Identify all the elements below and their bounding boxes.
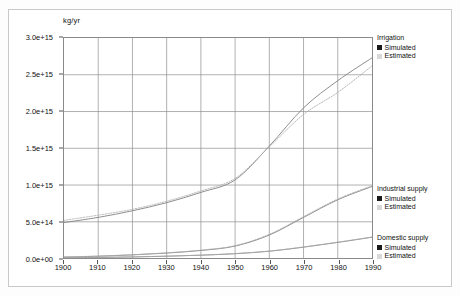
series-lines (64, 38, 372, 259)
y-axis-tick-label: 0.0e+00 (26, 255, 53, 264)
x-axis-tick-label: 1950 (227, 263, 244, 272)
x-axis-tick-label: 1900 (55, 263, 72, 272)
y-axis-tick-label: 2.0e+15 (26, 107, 53, 116)
x-axis-tick-mark (235, 260, 236, 264)
legend-irrigation: IrrigationSimulatedEstimated (377, 34, 416, 61)
legend-entry-label: Simulated (385, 44, 416, 53)
x-axis-tick-label: 1940 (192, 263, 209, 272)
legend-entry-label: Estimated (385, 203, 416, 212)
legend-entry: Simulated (377, 244, 428, 253)
series-line (64, 187, 372, 258)
y-axis-tick-label: 1.0e+15 (26, 181, 53, 190)
y-axis-unit-label: kg/yr (63, 16, 80, 25)
chart-figure: kg/yr 0.0e+005.0e+141.0e+151.5e+152.0e+1… (0, 0, 460, 296)
legend-swatch-icon (377, 205, 382, 210)
series-line (64, 186, 372, 257)
legend-entry-label: Estimated (385, 252, 416, 261)
x-axis-tick-label: 1980 (330, 263, 347, 272)
x-axis-tick-mark (304, 260, 305, 264)
x-axis-tick-mark (166, 260, 167, 264)
x-axis-tick-label: 1970 (296, 263, 313, 272)
y-axis-tick-label: 2.5e+15 (26, 70, 53, 79)
legend-title: Domestic supply (377, 234, 428, 243)
legend-swatch-icon (377, 196, 382, 201)
series-line (64, 237, 372, 258)
y-axis-tick-label: 3.0e+15 (26, 33, 53, 42)
x-axis-tick-mark (373, 260, 374, 264)
x-axis-tick-mark (201, 260, 202, 264)
x-axis-tick-label: 1910 (89, 263, 106, 272)
x-axis-tick-mark (339, 260, 340, 264)
x-axis-tick-label: 1990 (365, 263, 382, 272)
legend-entry: Estimated (377, 252, 428, 261)
legend-swatch-icon (377, 45, 382, 50)
legend-industrial-supply: Industrial supplySimulatedEstimated (377, 185, 428, 212)
legend-swatch-icon (377, 254, 382, 259)
series-line (64, 58, 372, 223)
y-axis-tick-labels: 0.0e+005.0e+141.0e+151.5e+152.0e+152.5e+… (0, 37, 59, 259)
x-axis-tick-label: 1960 (261, 263, 278, 272)
plot-wrap (63, 37, 373, 259)
legend-entry-label: Simulated (385, 195, 416, 204)
y-axis-tick-label: 1.5e+15 (26, 144, 53, 153)
legend-entry: Estimated (377, 52, 416, 61)
legend-entry-label: Simulated (385, 244, 416, 253)
plot-area (63, 37, 373, 259)
x-axis-tick-label: 1920 (124, 263, 141, 272)
x-axis-tick-mark (132, 260, 133, 264)
legend-entry-label: Estimated (385, 52, 416, 61)
x-axis-tick-labels: 1900191019201930194019501960197019801990 (63, 260, 373, 276)
x-axis-tick-mark (270, 260, 271, 264)
x-axis-tick-label: 1930 (158, 263, 175, 272)
legend-title: Irrigation (377, 34, 416, 43)
legend-entry: Simulated (377, 195, 428, 204)
legend-swatch-icon (377, 245, 382, 250)
legend-swatch-icon (377, 54, 382, 59)
x-axis-tick-mark (97, 260, 98, 264)
legend-entry: Estimated (377, 203, 428, 212)
legend-entry: Simulated (377, 44, 416, 53)
legend-title: Industrial supply (377, 185, 428, 194)
y-axis-tick-label: 5.0e+14 (26, 218, 53, 227)
x-axis-tick-mark (63, 260, 64, 264)
legend-domestic-supply: Domestic supplySimulatedEstimated (377, 234, 428, 261)
